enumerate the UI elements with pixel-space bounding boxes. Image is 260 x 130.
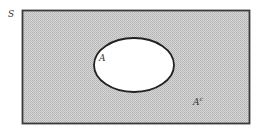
universe-label: S bbox=[8, 10, 14, 19]
set-a-label: A bbox=[99, 54, 106, 63]
venn-diagram bbox=[0, 0, 260, 130]
complement-superscript: c bbox=[200, 95, 203, 102]
complement-label: Ac bbox=[193, 96, 203, 107]
set-a-ellipse bbox=[94, 38, 174, 92]
